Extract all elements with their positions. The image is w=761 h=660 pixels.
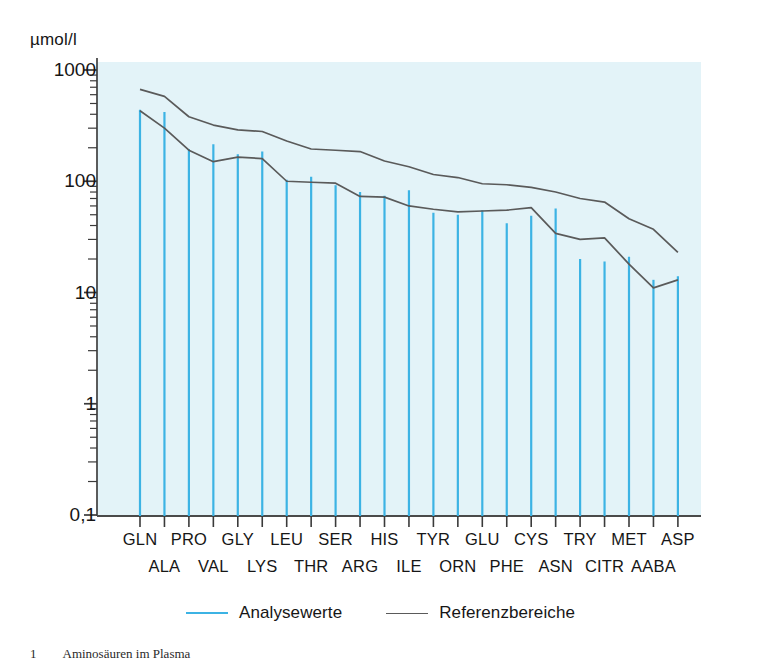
legend-label: Referenzbereiche: [439, 603, 575, 623]
x-axis-label: ILE: [396, 557, 421, 576]
legend-label: Analysewerte: [239, 603, 342, 623]
x-axis-label: GLN: [123, 530, 158, 549]
x-axis-label: MET: [611, 530, 646, 549]
caption-number: 1: [30, 646, 37, 660]
x-axis-label: GLY: [222, 530, 254, 549]
x-axis-label: TYR: [417, 530, 451, 549]
x-axis-label: VAL: [198, 557, 229, 576]
y-axis-tick-label: 10: [16, 282, 96, 304]
x-axis-label: ASP: [661, 530, 695, 549]
legend-item: Analysewerte: [186, 603, 342, 623]
y-axis-tick-label: 1: [16, 393, 96, 415]
x-axis-labels-row-top: GLNPROGLYLEUSERHISTYRGLUCYSTRYMETASP: [0, 530, 761, 554]
y-axis-tick-label: 100: [16, 170, 96, 192]
x-axis-label: PHE: [489, 557, 524, 576]
legend-line-icon: [386, 613, 428, 614]
x-axis-label: SER: [318, 530, 353, 549]
x-axis-label: GLU: [465, 530, 500, 549]
legend-line-icon: [186, 612, 228, 614]
x-axis-label: CYS: [514, 530, 549, 549]
y-axis-tick-label: 1000: [16, 59, 96, 81]
x-axis-label: ARG: [342, 557, 378, 576]
y-axis-tick-label: 0,1: [16, 504, 96, 526]
plot-background: [97, 62, 701, 516]
x-axis-label: THR: [294, 557, 329, 576]
x-axis-label: HIS: [370, 530, 398, 549]
x-axis-label: ALA: [149, 557, 181, 576]
x-axis-label: CITR: [585, 557, 624, 576]
x-axis-label: LEU: [270, 530, 303, 549]
figure-caption: 1Aminosäuren im Plasma: [30, 646, 730, 660]
x-axis-label: ORN: [439, 557, 476, 576]
x-axis-labels-row-bottom: ALAVALLYSTHRARGILEORNPHEASNCITRAABA: [0, 557, 761, 581]
x-axis-label: LYS: [247, 557, 278, 576]
chart-legend: AnalysewerteReferenzbereiche: [0, 600, 761, 626]
chart-figure: µmol/l 10001001010,1 GLNPROGLYLEUSERHIST…: [0, 0, 761, 660]
x-axis-label: TRY: [563, 530, 596, 549]
caption-text: Aminosäuren im Plasma: [63, 646, 191, 660]
legend-item: Referenzbereiche: [386, 603, 575, 623]
x-axis-label: PRO: [171, 530, 207, 549]
x-axis-label: AABA: [631, 557, 676, 576]
x-axis-label: ASN: [538, 557, 573, 576]
